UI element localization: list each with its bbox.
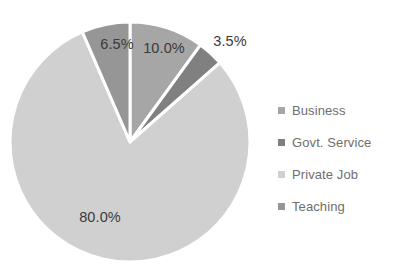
legend-swatch-icon — [278, 107, 285, 114]
legend-item-label: Business — [292, 103, 346, 118]
legend-item[interactable]: Teaching — [278, 190, 395, 222]
legend-swatch-icon — [278, 171, 285, 178]
pie-data-label: 3.5% — [213, 33, 246, 49]
legend-swatch-icon — [278, 203, 285, 210]
pie-data-label: 10.0% — [143, 40, 185, 56]
chart-legend: BusinessGovt. ServicePrivate JobTeaching — [278, 94, 395, 222]
legend-swatch-icon — [278, 139, 285, 146]
pie-data-label: 80.0% — [79, 209, 121, 225]
legend-item-label: Teaching — [292, 199, 345, 214]
pie-chart-plot-area: 10.0%3.5%80.0%6.5% — [0, 0, 268, 273]
pie-slice-group — [10, 22, 250, 262]
legend-item-label: Govt. Service — [292, 135, 371, 150]
legend-item[interactable]: Business — [278, 94, 395, 126]
legend-item-label: Private Job — [292, 167, 358, 182]
legend-item[interactable]: Govt. Service — [278, 126, 395, 158]
legend-item[interactable]: Private Job — [278, 158, 395, 190]
pie-data-label: 6.5% — [100, 36, 133, 52]
